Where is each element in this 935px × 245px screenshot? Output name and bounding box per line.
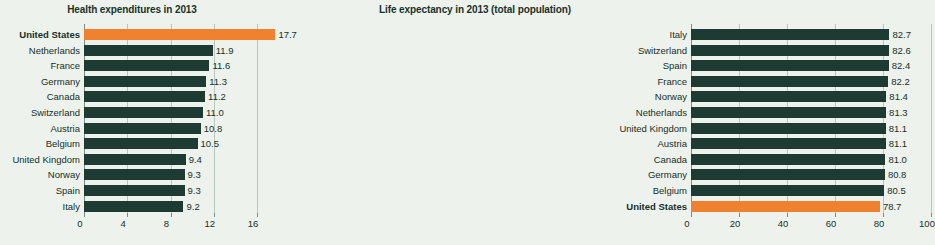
bar-value-label: 81.1 <box>889 121 908 136</box>
category-label: United States <box>626 199 687 214</box>
x-tick-mark <box>739 213 740 217</box>
bar-value-label: 82.6 <box>892 43 911 58</box>
x-axis-left: 0481216 <box>84 213 257 233</box>
category-label: Canada <box>47 89 80 104</box>
bar-row: Norway9.3 <box>84 167 257 182</box>
x-tick-mark <box>127 213 128 217</box>
category-label: France <box>657 74 687 89</box>
category-label: United Kingdom <box>12 152 80 167</box>
bar-value-label: 78.7 <box>883 199 902 214</box>
category-label: Netherlands <box>636 105 687 120</box>
bar-value-label: 81.3 <box>889 105 908 120</box>
bar-row: Germany11.3 <box>84 74 257 89</box>
bar-value-label: 81.4 <box>889 89 908 104</box>
x-tick-mark <box>84 213 85 217</box>
gridline <box>931 24 932 213</box>
x-tick-label: 40 <box>778 218 789 229</box>
bar-value-label: 80.5 <box>887 183 906 198</box>
x-tick-mark <box>835 213 836 217</box>
category-label: Canada <box>654 152 687 167</box>
category-label: Germany <box>648 167 687 182</box>
x-tick-label: 4 <box>121 218 126 229</box>
category-label: France <box>50 58 80 73</box>
bar <box>84 185 185 196</box>
bar <box>84 76 206 87</box>
bar <box>691 107 886 118</box>
bar <box>84 154 186 165</box>
category-label: Spain <box>663 58 687 73</box>
gridline <box>257 24 258 213</box>
bar <box>691 201 880 212</box>
bar-value-label: 9.3 <box>188 183 201 198</box>
x-tick-label: 16 <box>248 218 259 229</box>
bar-row: Netherlands11.9 <box>84 43 257 58</box>
bar-row: Canada11.2 <box>84 89 257 104</box>
bar-row: Spain9.3 <box>84 183 257 198</box>
chart-panel-health-expenditures: Health expenditures in 2013 United State… <box>0 0 317 245</box>
category-label: Norway <box>655 89 687 104</box>
category-label: Austria <box>657 136 687 151</box>
chart-panel-life-expectancy: Life expectancy in 2013 (total populatio… <box>317 0 634 245</box>
x-tick-label: 100 <box>919 218 935 229</box>
bar-row: Italy9.2 <box>84 199 257 214</box>
x-tick-label: 12 <box>204 218 215 229</box>
bar-row: Norway81.4 <box>691 89 931 104</box>
x-tick-label: 0 <box>684 218 689 229</box>
bar <box>691 29 889 40</box>
x-tick-label: 60 <box>826 218 837 229</box>
bar-value-label: 9.4 <box>189 152 202 167</box>
bar <box>84 169 185 180</box>
bar <box>84 201 183 212</box>
category-label: Norway <box>48 167 80 182</box>
x-tick-mark <box>787 213 788 217</box>
bar-row: Switzerland82.6 <box>691 43 931 58</box>
bar <box>84 60 209 71</box>
bar-row: United States17.7 <box>84 27 257 42</box>
bar <box>84 45 213 56</box>
x-tick-mark <box>931 213 932 217</box>
bar-value-label: 82.7 <box>892 27 911 42</box>
x-tick-label: 0 <box>77 218 82 229</box>
bar-value-label: 82.4 <box>892 58 911 73</box>
bar <box>691 60 889 71</box>
bar-value-label: 81.0 <box>888 152 907 167</box>
bar-row: Germany80.8 <box>691 167 931 182</box>
bar-row: Austria10.8 <box>84 121 257 136</box>
bar-value-label: 80.8 <box>888 167 907 182</box>
category-label: Italy <box>670 27 687 42</box>
bar <box>84 123 201 134</box>
x-axis-right: 020406080100 <box>691 213 931 233</box>
bar-value-label: 81.1 <box>889 136 908 151</box>
x-tick-mark <box>171 213 172 217</box>
category-label: Belgium <box>653 183 687 198</box>
bar <box>84 107 203 118</box>
category-label: Spain <box>56 183 80 198</box>
bar-row: France11.6 <box>84 58 257 73</box>
chart-title-right: Life expectancy in 2013 (total populatio… <box>345 4 605 15</box>
bar-value-label: 11.9 <box>216 43 234 58</box>
category-label: Switzerland <box>638 43 687 58</box>
bar-value-label: 11.2 <box>208 89 226 104</box>
bar <box>691 138 886 149</box>
x-tick-mark <box>257 213 258 217</box>
bar-row: Canada81.0 <box>691 152 931 167</box>
bar-row: United States78.7 <box>691 199 931 214</box>
bar <box>691 45 889 56</box>
category-label: Belgium <box>46 136 80 151</box>
bar-row: Austria81.1 <box>691 136 931 151</box>
bar <box>691 76 888 87</box>
category-label: Switzerland <box>31 105 80 120</box>
category-label: Germany <box>41 74 80 89</box>
bar-row: United Kingdom9.4 <box>84 152 257 167</box>
x-tick-label: 8 <box>164 218 169 229</box>
bar-value-label: 11.3 <box>209 74 227 89</box>
category-label: Austria <box>50 121 80 136</box>
bar-row: Spain82.4 <box>691 58 931 73</box>
x-tick-mark <box>883 213 884 217</box>
bar <box>691 185 884 196</box>
bar <box>691 123 886 134</box>
plot-area-left: United States17.7Netherlands11.9France11… <box>84 24 257 213</box>
bar-value-label: 10.8 <box>204 121 223 136</box>
bar-value-label: 17.7 <box>278 27 297 42</box>
